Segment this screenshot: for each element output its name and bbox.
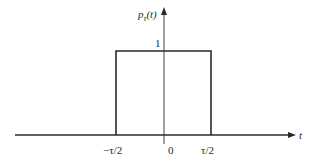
tick-label-zero: 0 bbox=[168, 145, 174, 156]
y-axis-label: pτ(t) bbox=[138, 9, 157, 23]
x-axis-label: t bbox=[299, 130, 302, 141]
tick-label-pos-half-tau: τ/2 bbox=[201, 145, 214, 156]
amplitude-label: 1 bbox=[155, 38, 161, 49]
pulse-diagram bbox=[0, 0, 311, 167]
y-label-arg: (t) bbox=[146, 8, 156, 20]
tick-label-neg-half-tau: −τ/2 bbox=[103, 145, 122, 156]
x-axis-arrow-icon bbox=[288, 132, 296, 138]
y-axis-arrow-icon bbox=[161, 7, 167, 15]
pulse-shape bbox=[116, 51, 211, 135]
